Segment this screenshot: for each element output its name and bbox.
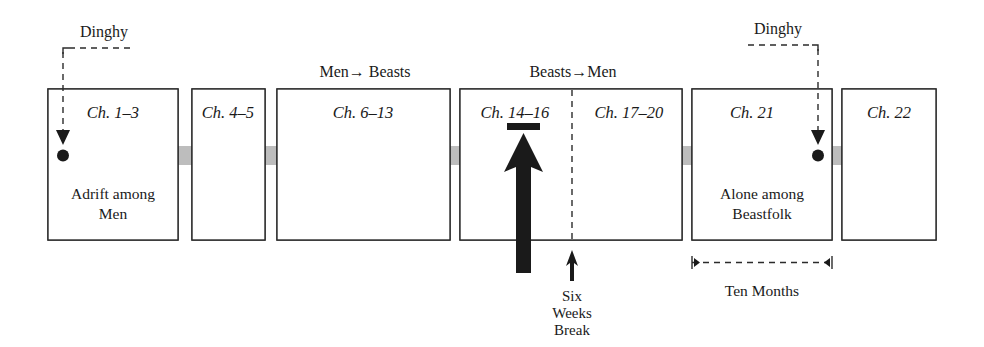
- break-label-line3: Break: [554, 322, 590, 338]
- caption-adrift-line2: Men: [99, 205, 128, 222]
- chapter-label-1: Ch. 1–3: [87, 103, 139, 122]
- timeline-diagram-canvas: Ch. 1–3 Ch. 4–5 Ch. 6–13 Ch. 14–16 Ch. 1…: [0, 0, 984, 347]
- chapter-label-6: Ch. 22: [867, 103, 911, 122]
- label-men-to-beasts: Men→ Beasts: [319, 63, 410, 80]
- break-label-line1: Six: [562, 288, 583, 304]
- label-beasts-to-men: Beasts→Men: [529, 63, 616, 80]
- break-label-line2: Weeks: [552, 305, 592, 321]
- chapter-label-2: Ch. 4–5: [202, 103, 254, 122]
- ten-months-label: Ten Months: [725, 282, 799, 299]
- break-arrowhead: [566, 250, 578, 281]
- caption-adrift-line1: Adrift among: [71, 185, 155, 202]
- caption-alone-line2: Beastfolk: [732, 205, 792, 222]
- chapter-label-4b: Ch. 17–20: [595, 103, 665, 122]
- timeline-diagram-svg: Ch. 1–3 Ch. 4–5 Ch. 6–13 Ch. 14–16 Ch. 1…: [0, 0, 984, 347]
- narrative-shift-cap-bar: [507, 123, 540, 130]
- dinghy-right-dot: [812, 150, 824, 162]
- chapter-label-4a: Ch. 14–16: [481, 103, 551, 122]
- chapter-label-5: Ch. 21: [730, 103, 774, 122]
- caption-alone-line1: Alone among: [720, 185, 804, 202]
- dinghy-left-dot: [57, 150, 69, 162]
- label-dinghy-left: Dinghy: [80, 23, 128, 41]
- chapter-label-3: Ch. 6–13: [333, 103, 394, 122]
- ten-months-group: Ten Months: [692, 256, 832, 299]
- label-dinghy-right: Dinghy: [754, 20, 802, 38]
